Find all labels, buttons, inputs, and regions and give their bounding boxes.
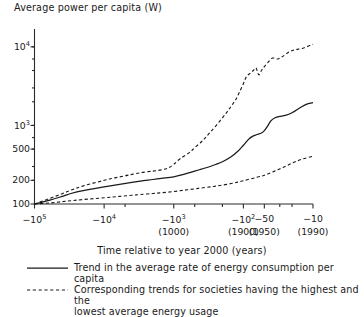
chart-figure: Average power per capita (W) 10410350020… bbox=[0, 0, 364, 317]
series-line-1 bbox=[35, 44, 314, 204]
x-axis-title: Time relative to year 2000 (years) bbox=[0, 245, 364, 256]
y-tick-label: 500 bbox=[0, 143, 30, 154]
x-tick-year-label: (1000) bbox=[148, 226, 200, 237]
x-tick-label: −105 bbox=[11, 213, 59, 225]
x-tick-year-label: (1990) bbox=[287, 226, 339, 237]
x-tick-label: −104 bbox=[80, 213, 128, 225]
series-line-0 bbox=[35, 103, 314, 204]
x-tick-label: −10 bbox=[289, 213, 337, 224]
y-tick-label: 104 bbox=[0, 40, 30, 52]
x-tick-label: −50 bbox=[240, 213, 288, 224]
x-tick-year-label: (1950) bbox=[238, 226, 290, 237]
legend-entry-label: Trend in the average rate of energy cons… bbox=[74, 262, 364, 284]
x-tick-label: −103 bbox=[150, 213, 198, 225]
y-tick-label: 200 bbox=[0, 174, 30, 185]
y-tick-label: 100 bbox=[0, 198, 30, 209]
legend-entry-label: lowest average energy usage bbox=[74, 306, 364, 317]
y-tick-label: 103 bbox=[0, 119, 30, 131]
legend-entry: Trend in the average rate of energy cons… bbox=[74, 262, 364, 284]
legend-entry-label: Corresponding trends for societies havin… bbox=[74, 284, 364, 306]
series-line-2 bbox=[35, 156, 314, 204]
legend-entry: Corresponding trends for societies havin… bbox=[74, 284, 364, 317]
